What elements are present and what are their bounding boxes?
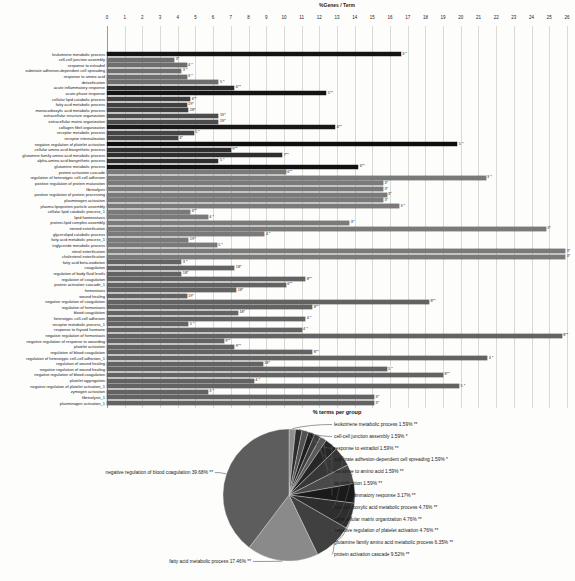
bar (107, 181, 383, 185)
bar (107, 232, 264, 236)
bar-row-label: regulation of coagulation (0, 277, 105, 282)
bar (107, 198, 383, 202)
bar (107, 120, 218, 124)
bar-annotation: 3 * (402, 52, 407, 57)
bar-row-label: fatty acid beta-oxidation (0, 260, 105, 265)
bar-row-label: detoxification (0, 80, 105, 85)
pie-slice-label: leukotriene metabolic process 1.59% ** (334, 422, 418, 427)
bar (107, 58, 174, 62)
bar (107, 238, 188, 242)
bar-annotation: 18* (264, 361, 270, 366)
bar (107, 97, 190, 101)
x-tick-label: 10 (278, 15, 290, 20)
x-tick-label: 0 (101, 15, 113, 20)
bar-annotation: 5** (328, 91, 333, 96)
bar-row-label: monocarboxylic acid metabolic process (0, 108, 105, 113)
bar-row-label: alpha-amino acid biosynthetic process (0, 158, 105, 163)
x-tick-label: 14 (349, 15, 361, 20)
x-tick-label: 15 (366, 15, 378, 20)
grid-line (514, 26, 515, 408)
bar-annotation: 28* (190, 108, 196, 113)
bar-row-label: steroid esterification (0, 226, 105, 231)
bar (107, 322, 188, 326)
x-tick-label: 8 (243, 15, 255, 20)
bar-row-label: regulation of blood coagulation (0, 350, 105, 355)
bar-annotation: 5 * (220, 80, 225, 85)
bar-annotation: 9** (225, 339, 230, 344)
x-tick-label: 6 (207, 15, 219, 20)
bar (107, 91, 326, 95)
bar-annotation: 3 * (188, 74, 193, 79)
bar-annotation: 3* (388, 192, 392, 197)
bar (107, 384, 459, 388)
bar-row-label: cell-cell junction assembly (0, 57, 105, 62)
bar-annotation: 3* (351, 220, 355, 225)
grid-line (337, 26, 338, 408)
bar (107, 300, 429, 304)
bar-annotation: 7** (284, 153, 289, 158)
bar (107, 215, 208, 219)
bar (107, 283, 286, 287)
x-tick-label: 11 (296, 15, 308, 20)
bar-row-label: acute-phase response (0, 91, 105, 96)
bar-row-label: positive regulation of protein processin… (0, 192, 105, 197)
bar-row-label: cholesterol esterification (0, 254, 105, 259)
pie-slice-label: response to estradiol 1.59% ** (334, 446, 399, 451)
bar (107, 243, 217, 247)
pie-slice-label: negative regulation of platelet activati… (334, 528, 438, 533)
x-tick-label: 12 (313, 15, 325, 20)
bar-annotation: 3* (179, 136, 183, 141)
bar-row-label: negative regulation of blood coagulation (0, 372, 105, 377)
pie-slice-label: protein activation cascade 9.52% ** (334, 552, 410, 557)
bar (107, 114, 218, 118)
bar-annotation: 4 * (303, 327, 308, 332)
bar-annotation: 5 * (459, 142, 464, 147)
bar (107, 367, 387, 371)
bar-annotation: 3 * (183, 68, 188, 73)
bar-row-label: plasma lipoprotein particle assembly (0, 204, 105, 209)
bar-annotation: 6** (360, 164, 365, 169)
bar-row-label: blood coagulation (0, 310, 105, 315)
bar-row-label: platelet aggregation (0, 378, 105, 383)
bar-row-label: glycerolipid catabolic process (0, 232, 105, 237)
bar-row-label: acute inflammatory response (0, 85, 105, 90)
pie-leader-line (292, 425, 332, 429)
bar (107, 379, 254, 383)
bar-row-label: protein-lipid complex assembly (0, 220, 105, 225)
bar-row-label: plasminogen activation_1 (0, 401, 105, 406)
x-tick-label: 20 (455, 15, 467, 20)
bar-annotation: 4 * (307, 316, 312, 321)
bar-row-label: leukotriene metabolic process (0, 52, 105, 57)
bar (107, 311, 238, 315)
bar-row-label: response to estradiol (0, 63, 105, 68)
bar-annotation: 3* (384, 187, 388, 192)
grid-line (567, 26, 568, 408)
bar (107, 362, 263, 366)
bar-annotation: 5 * (190, 322, 195, 327)
bar (107, 390, 208, 394)
bar-row-label: extracellular matrix organization (0, 119, 105, 124)
bar-annotation: 19* (220, 119, 226, 124)
bar (107, 401, 374, 405)
grid-line (372, 26, 373, 408)
bar-row-label: negative regulation of hemostasis (0, 333, 105, 338)
bar (107, 345, 234, 349)
bar-annotation: 4 * (188, 63, 193, 68)
bar-row-label: fatty acid metabolic process (0, 102, 105, 107)
bar (107, 103, 187, 107)
bar-annotation: 3 * (489, 356, 494, 361)
bar (107, 227, 546, 231)
bar-row-label: regulation of heterotypic cell-cell adhe… (0, 356, 105, 361)
bar-row-label: triglyceride metabolic process (0, 243, 105, 248)
bar-row-label: negative regulation of response to wound… (0, 339, 105, 344)
bar (107, 328, 302, 332)
bar (107, 131, 194, 135)
bar (107, 176, 486, 180)
pie-slice-label: detoxification 1.59% ** (334, 481, 382, 486)
x-tick-label: 13 (331, 15, 343, 20)
bar-row-label: lipid homeostasis (0, 215, 105, 220)
bar-annotation: 9** (236, 344, 241, 349)
x-tick-label: 24 (526, 15, 538, 20)
bar (107, 356, 487, 360)
bar-row-label: coagulation (0, 265, 105, 270)
